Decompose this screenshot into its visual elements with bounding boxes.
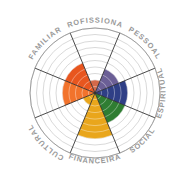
sector-label-text-pessoal: PESSOAL <box>127 25 163 61</box>
sector-label-pessoal: PESSOAL <box>127 25 163 61</box>
sector-label-text-social: SOCIAL <box>128 126 157 155</box>
sector-label-espiritual: ESPIRITUAL <box>154 66 168 119</box>
sector-label-profissional: PROFISSIONAL <box>0 0 125 30</box>
sector-label-cultural: CULTURAL <box>25 123 65 163</box>
sector-label-text-profissional: PROFISSIONAL <box>0 0 125 30</box>
wheel-of-life-canvas: FAMILIARPROFISSIONALPESSOALESPIRITUALSOC… <box>0 0 188 185</box>
value-wedges-group <box>62 63 127 139</box>
sector-label-text-familiar: FAMILIAR <box>27 25 64 62</box>
sector-label-financeira: FINANCEIRA <box>68 152 123 166</box>
sector-label-familiar: FAMILIAR <box>27 25 64 62</box>
sector-label-text-financeira: FINANCEIRA <box>68 152 123 166</box>
wheel-of-life-diagram: FAMILIARPROFISSIONALPESSOALESPIRITUALSOC… <box>0 0 188 185</box>
sector-label-social: SOCIAL <box>128 126 157 155</box>
sector-label-text-cultural: CULTURAL <box>25 123 65 163</box>
sector-label-text-espiritual: ESPIRITUAL <box>154 66 168 119</box>
